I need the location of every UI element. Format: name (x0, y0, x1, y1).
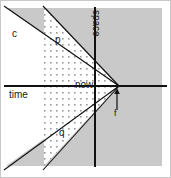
origin-label-now: now (75, 80, 93, 90)
spacetime-diagram-figure: c p q f now time space (0, 0, 171, 178)
future-point-label-f: f (114, 109, 117, 118)
region-label-p: p (55, 35, 61, 45)
axis-label-space: space (91, 10, 101, 37)
axis-label-time: time (9, 90, 28, 100)
light-cone-label-c: c (12, 29, 17, 39)
region-label-q: q (59, 128, 65, 138)
